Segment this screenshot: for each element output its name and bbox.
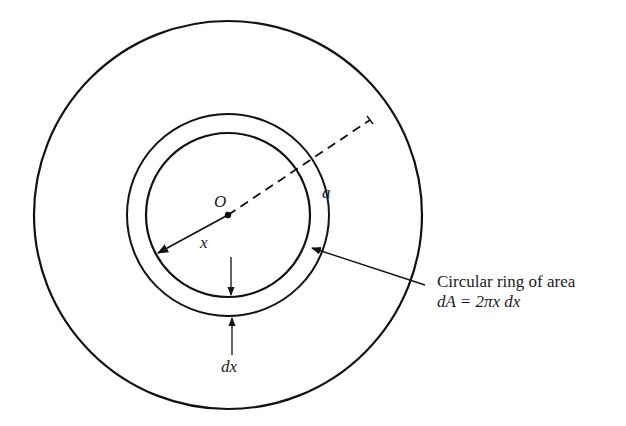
radius-label-x: x: [199, 233, 208, 252]
radius-a-dashed-line: [228, 120, 370, 215]
center-label-O: O: [214, 192, 226, 211]
ring-width-label-dx: dx: [221, 357, 238, 376]
ring-annotation-leader-arrow: [312, 248, 425, 285]
radius-a-end-tick: [367, 116, 373, 124]
radius-label-a: a: [322, 183, 331, 202]
ring-annotation-formula: dA = 2πx dx: [437, 292, 521, 311]
circular-ring-diagram: O x a dx Circular ring of area dA = 2πx …: [0, 0, 626, 426]
ring-annotation-line1: Circular ring of area: [437, 272, 576, 291]
radius-x-arrow: [158, 215, 228, 253]
